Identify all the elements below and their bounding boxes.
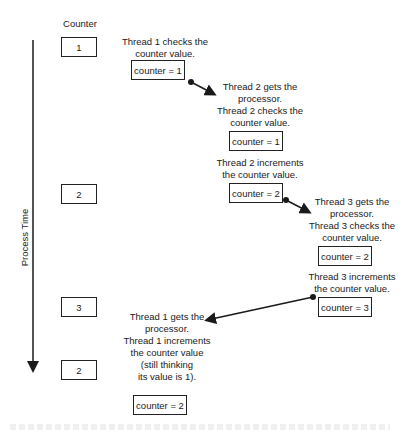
step-1-text: Thread 1 checks the counter value. [110, 36, 220, 60]
bleed-through-text [10, 424, 390, 430]
counter-value-box: counter = 2 [133, 395, 187, 415]
counter-value-box: counter = 1 [229, 131, 283, 151]
counter-value-box: counter = 3 [318, 297, 372, 317]
step-5-text: Thread 3 increments the counter value. [297, 271, 400, 295]
counter-box: 2 [61, 360, 97, 380]
counter-box: 1 [61, 37, 97, 57]
counter-value-box: counter = 2 [318, 246, 372, 266]
counter-header: Counter [55, 18, 105, 30]
counter-value-box: counter = 1 [131, 60, 185, 80]
counter-value-box: counter = 2 [229, 183, 283, 203]
counter-box: 2 [61, 184, 97, 204]
counter-box: 3 [61, 297, 97, 317]
axis-label: Process Time [19, 208, 30, 268]
step-4-text: Thread 3 gets the processor. Thread 3 ch… [297, 196, 400, 244]
arrow-to-thread1 [207, 297, 313, 320]
step-3-text: Thread 2 increments the counter value. [205, 157, 315, 181]
step-6-text: Thread 1 gets the processor. Thread 1 in… [112, 311, 222, 383]
step-2-text: Thread 2 gets the processor. Thread 2 ch… [205, 81, 315, 129]
